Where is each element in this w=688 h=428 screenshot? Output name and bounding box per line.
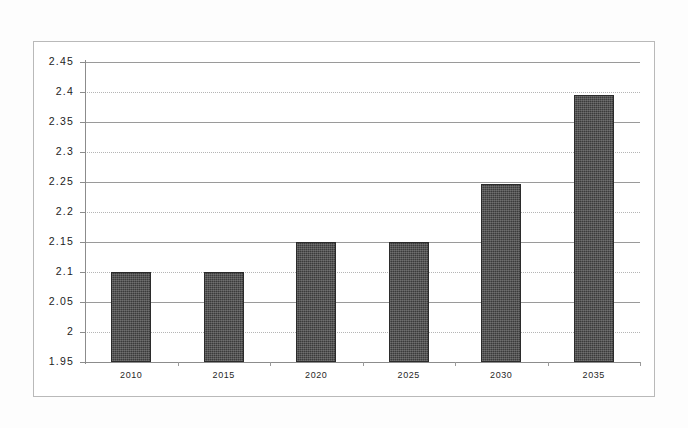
x-axis-tick bbox=[640, 362, 641, 366]
x-axis-tick-label: 2020 bbox=[281, 370, 351, 380]
x-axis-tick bbox=[178, 362, 179, 366]
scanned-page: 2.452.42.352.32.252.22.152.12.0521.95 20… bbox=[0, 0, 688, 428]
x-axis-tick bbox=[548, 362, 549, 366]
y-axis-tick-label: 2.35 bbox=[18, 115, 74, 127]
x-axis-tick-label: 2035 bbox=[559, 370, 629, 380]
y-axis-labels: 2.452.42.352.32.252.22.152.12.0521.95 bbox=[12, 0, 74, 428]
x-axis-tick-label: 2025 bbox=[374, 370, 444, 380]
y-axis-tick-label: 2.2 bbox=[18, 205, 74, 217]
x-axis-tick-label: 2030 bbox=[466, 370, 536, 380]
y-axis-tick-label: 2.05 bbox=[18, 295, 74, 307]
y-axis-tick-label: 2.45 bbox=[18, 55, 74, 67]
y-axis-tick-label: 1.95 bbox=[18, 355, 74, 367]
x-axis-tick bbox=[363, 362, 364, 366]
x-axis-tick bbox=[455, 362, 456, 366]
y-axis-tick-label: 2.15 bbox=[18, 235, 74, 247]
x-axis-labels: 201020152020202520302035 bbox=[85, 0, 640, 428]
y-axis-tick-label: 2.25 bbox=[18, 175, 74, 187]
x-axis-tick-label: 2015 bbox=[189, 370, 259, 380]
y-axis-tick-label: 2 bbox=[18, 325, 74, 337]
y-axis-tick-label: 2.3 bbox=[18, 145, 74, 157]
y-axis-tick-label: 2.4 bbox=[18, 85, 74, 97]
x-axis-tick-label: 2010 bbox=[96, 370, 166, 380]
x-axis-tick bbox=[270, 362, 271, 366]
y-axis-tick-label: 2.1 bbox=[18, 265, 74, 277]
